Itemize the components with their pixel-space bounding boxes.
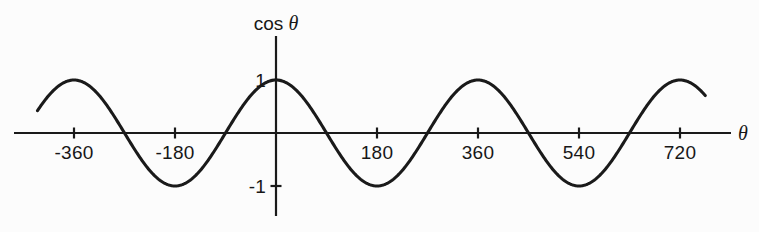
x-tick-label--360: -360 [55, 143, 94, 162]
x-axis-title: θ [738, 124, 748, 143]
x-tick-label-720: 720 [664, 143, 696, 162]
x-tick-label-360: 360 [462, 143, 494, 162]
x-tick-label--180: -180 [156, 143, 195, 162]
y-tick-label-neg1: -1 [249, 177, 266, 196]
y-axis-title: cos θ [254, 14, 299, 33]
theta-symbol: θ [738, 122, 748, 144]
x-tick-label-540: 540 [563, 143, 595, 162]
y-tick-label-pos1: 1 [255, 71, 266, 90]
cosine-graph-figure: -360-180180360540720 1-1 cos θ θ [0, 0, 759, 232]
x-tick-label-180: 180 [361, 143, 393, 162]
plot-canvas [0, 0, 759, 232]
theta-symbol: θ [289, 12, 299, 34]
